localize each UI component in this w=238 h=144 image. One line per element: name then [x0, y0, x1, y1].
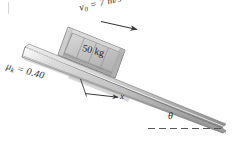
incline-angle-label: θ: [168, 110, 173, 121]
physics-figure-inclined-plane: v0 = 7 m/s μk = 0.40 50 kg x θ: [0, 0, 238, 144]
inclined-ramp: [22, 44, 226, 134]
x-axis-label: x: [120, 91, 124, 101]
velocity-arrow: [101, 22, 137, 30]
